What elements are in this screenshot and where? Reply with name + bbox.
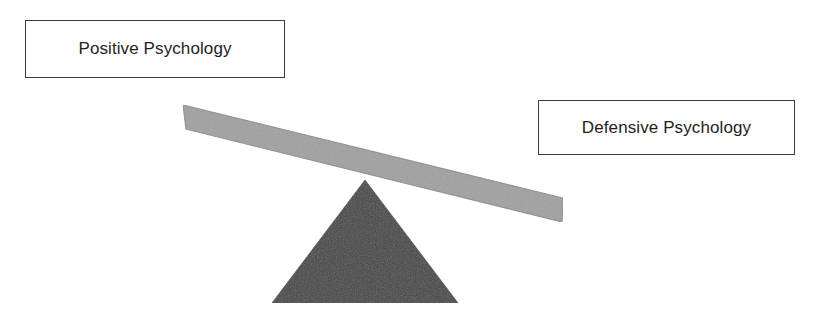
- label-box-defensive-psychology: Defensive Psychology: [538, 100, 795, 155]
- label-text-positive-psychology: Positive Psychology: [78, 39, 231, 59]
- fulcrum-triangle: [272, 180, 458, 303]
- label-box-positive-psychology: Positive Psychology: [25, 20, 285, 78]
- diagram-canvas: Positive Psychology Defensive Psychology: [0, 0, 821, 320]
- label-text-defensive-psychology: Defensive Psychology: [582, 118, 751, 138]
